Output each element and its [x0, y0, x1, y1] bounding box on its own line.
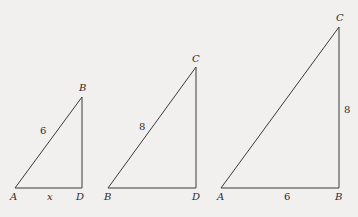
edge-bc	[108, 67, 196, 188]
triangle-abc: A B C 8 6	[216, 12, 350, 202]
diagram-canvas: A B D 6 x B C D 8 A B C 8 6	[0, 0, 358, 217]
vertex-label-a: A	[9, 191, 17, 202]
edge-label-ab: 6	[40, 125, 46, 136]
triangle-abd: A B D 6 x	[9, 82, 86, 202]
edge-ab	[15, 97, 82, 188]
edge-ac	[221, 27, 339, 188]
vertex-label-b: B	[103, 191, 111, 202]
triangle-bcd: B C D 8	[103, 53, 200, 202]
vertex-label-b: B	[78, 82, 86, 93]
vertex-label-b: B	[334, 191, 342, 202]
edge-label-ad: x	[47, 191, 53, 202]
vertex-label-d: D	[191, 191, 200, 202]
vertex-label-d: D	[75, 191, 84, 202]
vertex-label-c: C	[336, 12, 344, 23]
vertex-label-c: C	[192, 53, 200, 64]
edge-label-bc: 8	[139, 121, 145, 132]
edge-label-bc: 8	[344, 104, 350, 115]
vertex-label-a: A	[216, 191, 224, 202]
edge-label-ab: 6	[284, 191, 290, 202]
